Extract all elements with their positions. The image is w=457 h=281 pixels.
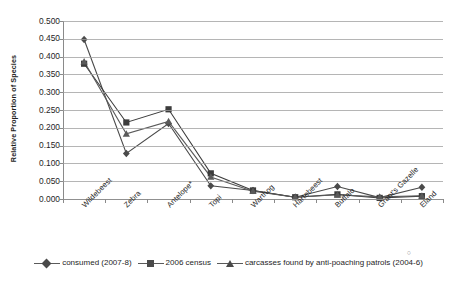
data-point-marker <box>334 183 341 190</box>
y-tick-mark <box>59 74 63 75</box>
legend-item[interactable]: carcasses found by anti-poaching patrols… <box>217 258 423 267</box>
y-tick-label: 0.000 <box>14 195 60 203</box>
scan-artifact: ○ <box>407 249 411 256</box>
y-tick-mark <box>59 21 63 22</box>
y-tick-mark <box>59 128 63 129</box>
y-tick-mark <box>59 57 63 58</box>
line-chart: Relative Proportion of Species 0.0000.05… <box>0 0 457 281</box>
legend-item[interactable]: 2006 census <box>138 258 211 267</box>
y-tick-mark <box>59 181 63 182</box>
y-tick-label: 0.200 <box>14 123 60 131</box>
legend-item[interactable]: consumed (2007-8) <box>34 258 131 267</box>
gridline <box>63 74 443 75</box>
gridline <box>63 146 443 147</box>
data-point-marker <box>123 119 129 125</box>
y-axis-tick-labels: 0.0000.0500.1000.1500.2000.2500.3000.350… <box>12 0 60 281</box>
legend-label: 2006 census <box>166 259 211 268</box>
y-tick-label: 0.300 <box>14 88 60 96</box>
y-tick-label: 0.050 <box>14 177 60 185</box>
y-tick-mark <box>59 110 63 111</box>
y-tick-mark <box>59 92 63 93</box>
y-tick-mark <box>59 163 63 164</box>
x-axis-category-labels: WildebeestZebraAntelope*TopiWarthogHarte… <box>63 203 457 263</box>
y-tick-label: 0.500 <box>14 17 60 25</box>
y-tick-mark <box>59 39 63 40</box>
legend-label: carcasses found by anti-poaching patrols… <box>245 259 423 268</box>
gridline <box>63 21 443 22</box>
y-tick-label: 0.400 <box>14 52 60 60</box>
series-line <box>84 40 422 198</box>
plot-area <box>63 21 443 199</box>
gridline <box>63 128 443 129</box>
gridline <box>63 110 443 111</box>
chart-legend: consumed (2007-8)2006 censuscarcasses fo… <box>0 258 457 268</box>
triangle-marker-icon <box>217 259 243 268</box>
square-marker-icon <box>138 259 164 268</box>
y-tick-label: 0.450 <box>14 34 60 42</box>
y-tick-label: 0.250 <box>14 106 60 114</box>
gridline <box>63 92 443 93</box>
gridline <box>63 57 443 58</box>
data-point-marker <box>123 150 130 157</box>
gridline <box>63 181 443 182</box>
y-tick-label: 0.100 <box>14 159 60 167</box>
legend-label: consumed (2007-8) <box>62 259 131 268</box>
data-point-marker <box>165 118 172 125</box>
y-tick-label: 0.350 <box>14 70 60 78</box>
gridline <box>63 39 443 40</box>
gridline <box>63 163 443 164</box>
diamond-marker-icon <box>34 259 60 268</box>
data-point-marker <box>418 184 425 191</box>
y-tick-label: 0.150 <box>14 141 60 149</box>
series-line <box>84 62 422 198</box>
y-tick-mark <box>59 146 63 147</box>
